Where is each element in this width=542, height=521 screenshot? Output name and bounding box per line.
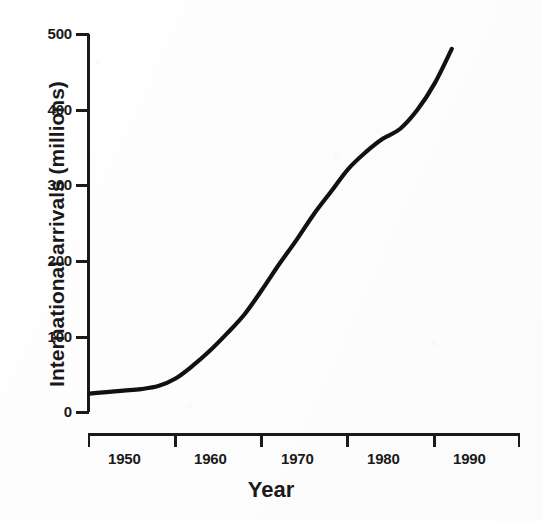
x-tick-label-1970: 1970 (281, 450, 345, 467)
x-axis (88, 435, 520, 448)
chart-figure: 500 400 300 200 100 0 1950 1960 1970 198… (0, 0, 542, 521)
chart-plot-area (0, 0, 542, 521)
x-axis-title: Year (0, 477, 542, 503)
x-tick-label-1960: 1960 (194, 450, 258, 467)
data-series-line (89, 49, 452, 394)
y-tick-label-500: 500 (28, 25, 72, 42)
x-tick-label-1980: 1980 (367, 450, 431, 467)
x-tick-label-1990: 1990 (453, 450, 517, 467)
y-axis (76, 34, 89, 413)
y-tick-label-0: 0 (28, 403, 72, 420)
y-axis-title: International arrivals (millions) (45, 69, 69, 399)
x-tick-label-1950: 1950 (108, 450, 172, 467)
